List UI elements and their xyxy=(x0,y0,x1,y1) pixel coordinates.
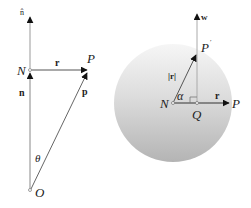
label-point-p: P xyxy=(86,51,95,66)
point-n-right xyxy=(172,102,175,105)
diagram-canvas: n̂ N r P n p θ O w P ′ |r| N α r P Q xyxy=(0,0,251,208)
point-n xyxy=(29,69,32,72)
label-point-o: O xyxy=(35,185,45,200)
right-figure: w P ′ |r| N α r P Q xyxy=(114,12,240,162)
label-point-p-right: P xyxy=(231,96,240,111)
label-point-p-prime: P xyxy=(200,40,209,55)
label-r-vector-right: r xyxy=(215,90,220,101)
label-point-n: N xyxy=(16,63,27,78)
label-p-vector: p xyxy=(82,86,88,97)
label-w-axis: w xyxy=(201,12,208,22)
p-vector-arrow xyxy=(31,73,87,189)
label-prime-mark: ′ xyxy=(210,38,212,46)
point-q xyxy=(196,102,199,105)
label-n-vector: n xyxy=(19,87,25,98)
label-point-n-right: N xyxy=(159,96,170,111)
left-figure: n̂ N r P n p θ O xyxy=(16,8,95,200)
label-r-vector: r xyxy=(55,57,60,68)
label-r-norm: |r| xyxy=(168,71,176,81)
label-theta: θ xyxy=(35,152,41,164)
label-point-q: Q xyxy=(192,107,202,122)
label-n-hat: n̂ xyxy=(20,8,24,17)
point-o xyxy=(29,189,32,192)
label-alpha: α xyxy=(177,89,184,103)
